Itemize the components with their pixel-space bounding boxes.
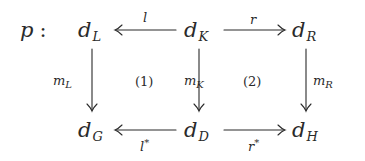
arrow-l-star: [115, 125, 176, 135]
rule-name: p:: [20, 20, 47, 41]
square-label-1: (1): [135, 75, 153, 88]
arrow-m-r: [301, 49, 311, 111]
label-l: l: [143, 11, 147, 24]
node-d-l: dL: [78, 20, 101, 43]
label-m-r: mR: [313, 74, 333, 90]
node-d-r: dR: [292, 20, 316, 43]
label-m-k: mK: [184, 74, 204, 90]
pushout-diagram: p: dL dK dR dG dD dH l r l* r* mL mK mR …: [0, 0, 365, 161]
label-l-star: l*: [140, 138, 149, 153]
arrow-l: [115, 25, 176, 35]
square-label-2: (2): [243, 75, 261, 88]
label-m-l: mL: [53, 74, 72, 90]
label-r-star: r*: [248, 138, 259, 153]
node-d-h: dH: [292, 120, 318, 143]
rule-name-symbol: p: [20, 18, 33, 42]
label-r: r: [250, 13, 256, 26]
node-d-g: dG: [78, 120, 103, 143]
arrow-m-l: [87, 49, 97, 111]
rule-name-separator: :: [39, 18, 46, 42]
node-d-k: dK: [184, 20, 208, 43]
node-d-d: dD: [184, 120, 209, 143]
arrow-r-star: [224, 125, 285, 135]
